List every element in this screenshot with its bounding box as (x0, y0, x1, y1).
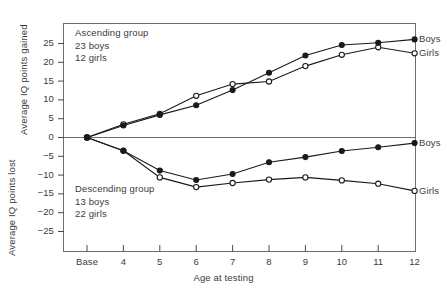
y-tick-label-neg20: −20 (28, 206, 54, 217)
x-tick-label-base: Base (67, 256, 107, 267)
y-axis-title-lower: Average IQ points lost (6, 159, 17, 256)
y-tick-label-5: 5 (28, 112, 54, 123)
x-tick-label-9: 9 (295, 256, 315, 267)
x-tick-label-8: 8 (259, 256, 279, 267)
annotation-ascending-line2: 23 boys (75, 40, 149, 53)
y-tick-label-neg15: −15 (28, 187, 54, 198)
series-label-ascending-boys: Boys (419, 33, 441, 44)
chart-figure: Average IQ points gained Average IQ poin… (0, 0, 447, 291)
x-tick-label-6: 6 (186, 256, 206, 267)
x-tick-label-5: 5 (150, 256, 170, 267)
y-tick-label-25: 25 (28, 37, 54, 48)
y-tick-label-neg25: −25 (28, 225, 54, 236)
annotation-ascending-line1: Ascending group (75, 27, 149, 40)
y-tick-label-neg10: −10 (28, 169, 54, 180)
annotation-descending-line2: 13 boys (75, 196, 155, 209)
y-tick-label-10: 10 (28, 93, 54, 104)
x-axis-ticks (87, 245, 378, 252)
x-tick-label-10: 10 (332, 256, 352, 267)
series-label-descending-girls: Girls (419, 185, 439, 196)
x-axis-title: Age at testing (0, 272, 447, 283)
series-label-ascending-girls: Girls (419, 47, 439, 58)
x-tick-label-4: 4 (113, 256, 133, 267)
annotation-ascending-group: Ascending group 23 boys 12 girls (75, 27, 149, 65)
y-tick-label-0: 0 (28, 131, 54, 142)
y-tick-label-15: 15 (28, 75, 54, 86)
y-tick-label-20: 20 (28, 56, 54, 67)
series-label-descending-boys: Boys (419, 137, 441, 148)
x-tick-label-12: 12 (405, 256, 425, 267)
x-tick-label-11: 11 (368, 256, 388, 267)
annotation-ascending-line3: 12 girls (75, 52, 149, 65)
annotation-descending-line1: Descending group (75, 183, 155, 196)
y-tick-label-neg5: −5 (28, 150, 54, 161)
annotation-descending-group: Descending group 13 boys 22 girls (75, 183, 155, 221)
annotation-descending-line3: 22 girls (75, 208, 155, 221)
chart-plot-area (0, 0, 447, 291)
x-tick-label-7: 7 (223, 256, 243, 267)
